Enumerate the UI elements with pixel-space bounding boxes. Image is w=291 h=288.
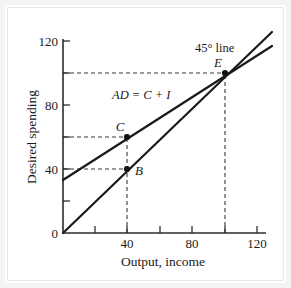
- x-axis-title: Output, income: [121, 254, 205, 269]
- y-tick-label-80: 80: [45, 98, 58, 113]
- x-axis-ticks: [95, 226, 257, 233]
- point-B-marker: [124, 166, 130, 172]
- point-E-marker: [222, 70, 228, 76]
- ad-line: [63, 46, 272, 180]
- x-tick-label-120: 120: [247, 236, 267, 251]
- ad-line-annotation: AD = C + I: [111, 88, 171, 102]
- y-tick-label-0: 0: [52, 226, 59, 241]
- data-lines: [63, 32, 272, 233]
- fortyfive-line-annotation: 45° line: [195, 41, 235, 55]
- x-tick-label-40: 40: [121, 236, 134, 251]
- chart-figure: C B E AD = C + I 45° line 120 80 40 0 40…: [0, 0, 291, 288]
- y-tick-label-120: 120: [39, 34, 59, 49]
- y-tick-label-40: 40: [45, 162, 58, 177]
- point-E-label: E: [213, 55, 222, 70]
- fortyfive-degree-line: [63, 32, 272, 233]
- x-tick-label-80: 80: [186, 236, 199, 251]
- y-axis-title: Desired spending: [24, 90, 39, 184]
- point-C-marker: [124, 134, 130, 140]
- keynesian-cross-plot: C B E AD = C + I 45° line 120 80 40 0 40…: [0, 0, 291, 288]
- point-B-label: B: [135, 163, 143, 178]
- point-C-label: C: [116, 119, 125, 134]
